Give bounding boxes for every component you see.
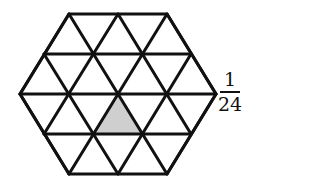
fraction-label: 1 24 (216, 70, 244, 114)
fraction-denominator: 24 (216, 93, 244, 114)
shaded-triangle (93, 94, 142, 134)
fraction-numerator: 1 (216, 70, 244, 91)
